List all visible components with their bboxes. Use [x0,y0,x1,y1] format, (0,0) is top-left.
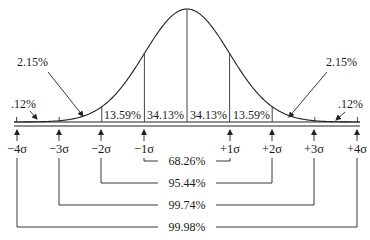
region-label-left-1-2: 13.59% [104,108,141,122]
sigma-dividers [17,9,358,122]
sigma-label: −4σ [7,142,27,156]
region-label-right-tail: .12% [338,97,363,111]
range-brackets: 68.26%95.44%99.74%99.98% [17,154,357,234]
range-bracket-line [101,158,158,183]
sigma-label: −1σ [134,142,154,156]
range-bracket-line [17,158,158,227]
callout-arrow-right-2-3 [289,72,327,117]
range-label: 95.44% [169,176,206,190]
sigma-label: −2σ [91,142,111,156]
range-label: 99.98% [169,220,206,234]
sigma-label: +4σ [347,142,367,156]
region-label-right-2-3: 2.15% [326,55,357,69]
normal-distribution-diagram: 13.59% 34.13% 34.13% 13.59% 2.15% 2.15% … [0,0,370,240]
callout-arrow-left-tail [30,111,37,119]
range-label: 68.26% [169,154,206,168]
callout-arrow-right-tail [336,112,345,120]
region-label-left-0-1: 34.13% [147,108,184,122]
range-label: 99.74% [169,198,206,212]
range-bracket-line [216,158,272,183]
range-bracket-line [59,158,158,205]
region-label-left-2-3: 2.15% [17,55,48,69]
region-label-right-0-1: 34.13% [190,108,227,122]
callout-arrow-left-2-3 [48,72,83,116]
sigma-label: −3σ [49,142,69,156]
region-label-left-tail: .12% [11,97,36,111]
range-bracket-line [216,158,314,205]
range-bracket-line [144,158,158,161]
sigma-label: +2σ [262,142,282,156]
region-label-right-1-2: 13.59% [233,108,270,122]
range-bracket-line [216,158,357,227]
sigma-ticks: −4σ−3σ−2σ−1σ+1σ+2σ+3σ+4σ [7,130,367,156]
sigma-label: +1σ [220,142,240,156]
range-bracket-line [216,158,230,161]
sigma-label: +3σ [304,142,324,156]
